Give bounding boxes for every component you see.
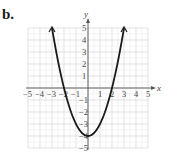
x-tick-label: 5 [146, 89, 150, 99]
y-tick-label: 3 [82, 47, 86, 57]
y-tick-label: 5 [82, 23, 86, 33]
y-tick-label: −5 [79, 143, 88, 153]
x-axis-arrow-icon [151, 86, 156, 90]
x-axis-label: x [156, 83, 161, 93]
x-tick-label: −3 [47, 89, 56, 99]
y-tick-label: −1 [79, 95, 88, 105]
y-tick-label: 1 [82, 71, 86, 81]
x-tick-label: 3 [122, 89, 126, 99]
y-axis-label: y [83, 9, 88, 19]
y-tick-label: 2 [82, 59, 86, 69]
x-tick-label: 1 [98, 89, 102, 99]
x-tick-label: −5 [23, 89, 32, 99]
parabola-chart: xy−5−4−3−2−112345−5−4−3−2−112345 [0, 0, 178, 155]
y-tick-label: −2 [79, 107, 88, 117]
x-tick-label: −4 [35, 89, 45, 99]
y-tick-label: −3 [79, 119, 88, 129]
